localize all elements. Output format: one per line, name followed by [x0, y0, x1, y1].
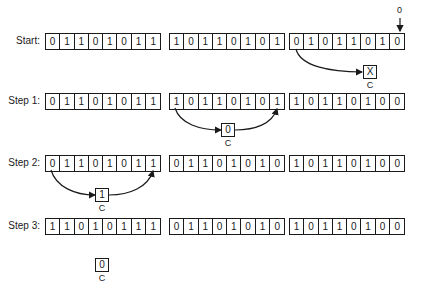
carry-arrow-step2-in [51, 170, 95, 195]
carry-arrow-start [296, 49, 362, 72]
carry-arrow-step1-in [175, 108, 221, 130]
carry-arrow-step2-out [109, 171, 153, 195]
carry-arrow-step1-out [235, 109, 277, 130]
arrows-layer [0, 0, 423, 293]
